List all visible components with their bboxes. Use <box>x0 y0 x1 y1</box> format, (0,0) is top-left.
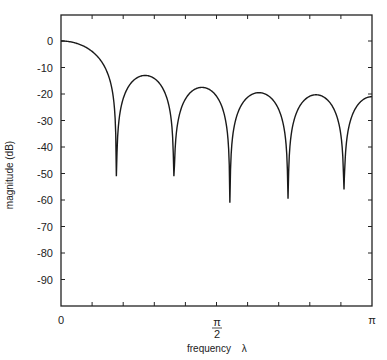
y-tick-label: -20 <box>37 88 53 100</box>
x-tick-label-pi: π <box>368 314 376 326</box>
x-axis-ticks <box>92 15 341 306</box>
y-tick-label: -30 <box>37 115 53 127</box>
magnitude-curve <box>61 41 372 203</box>
y-tick-label: -10 <box>37 62 53 74</box>
x-axis-label-symbol: λ <box>242 343 247 354</box>
x-tick-label-pi-half-denominator: 2 <box>214 328 220 340</box>
y-axis-ticks: 0-10-20-30-40-50-60-70-80-90 <box>37 35 372 286</box>
y-axis-label: magnitude (dB) <box>4 141 15 209</box>
x-tick-label-pi-half-numerator: π <box>213 316 221 328</box>
magnitude-response-chart: 0-10-20-30-40-50-60-70-80-90 0 π 2 π fre… <box>0 0 387 360</box>
x-axis-label: frequency λ <box>187 343 247 354</box>
x-tick-label-0: 0 <box>58 314 64 326</box>
y-tick-label: -70 <box>37 221 53 233</box>
plot-border <box>61 15 372 306</box>
y-tick-label: -90 <box>37 274 53 286</box>
y-tick-label: -40 <box>37 141 53 153</box>
y-tick-label: 0 <box>47 35 53 47</box>
plot-frame <box>61 15 372 306</box>
y-tick-label: -50 <box>37 168 53 180</box>
x-axis-label-text: frequency <box>187 343 231 354</box>
y-tick-label: -60 <box>37 194 53 206</box>
y-tick-label: -80 <box>37 247 53 259</box>
